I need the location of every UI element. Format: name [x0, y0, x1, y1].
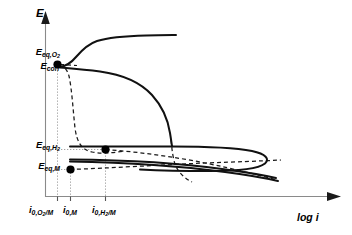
y-tick-symbol-eq-o2: E: [36, 46, 42, 57]
axes-group: [41, 11, 341, 201]
y-tick-sub-eq-o2: eq,O: [42, 51, 57, 58]
y-tick-label-ecorr: Ecorr: [2, 61, 60, 71]
solid-curves-group: [60, 35, 278, 181]
x-axis-title: log i: [297, 212, 319, 223]
eq-point-h2-marker: [101, 145, 109, 153]
x-axis-title-prefix: log: [297, 211, 316, 223]
y-axis-title: E: [36, 8, 44, 20]
x-axis-title-symbol: i: [316, 211, 319, 223]
eq-point-m-marker: [66, 165, 74, 173]
y-tick-sub-ecorr: corr: [47, 65, 60, 72]
y-tick-label-eq-o2: Eeq,O2: [2, 47, 60, 57]
y-tick-label-eq-m: Eeq,M: [2, 161, 60, 171]
x-tick-subtail-i0-o2: /M: [46, 209, 54, 216]
gridlines-group: [55, 65, 107, 198]
markers-group: [53, 60, 109, 173]
x-tick-sub-i0-o2: 0,O: [32, 209, 43, 216]
x-tick-sub-i0-m: 0,M: [66, 209, 77, 216]
x-tick-marks-group: [58, 197, 106, 202]
y-tick-subdeep-eq-h2: 2: [57, 146, 60, 152]
y-tick-symbol-ecorr: E: [41, 60, 47, 71]
evans-diagram-figure: E log i Eeq,O2 Ecorr Eeq,H2 Eeq,M i0,O2/…: [0, 0, 352, 235]
y-tick-label-eq-h2: Eeq,H2: [2, 140, 60, 150]
oxygen-reduction-curve: [60, 35, 176, 67]
x-tick-sub-i0-h2: 0,H: [95, 209, 106, 216]
x-tick-subtail-i0-h2: /M: [108, 209, 116, 216]
y-tick-subdeep-eq-o2: 2: [57, 53, 60, 59]
y-tick-sub-eq-h2: eq,H: [42, 144, 57, 151]
x-tick-label-i0-h2: i0,H2/M: [92, 205, 116, 215]
x-tick-label-i0-o2: i0,O2/M: [29, 205, 53, 215]
y-tick-symbol-eq-m: E: [38, 160, 44, 171]
x-tick-label-i0-m: i0,M: [63, 205, 77, 215]
metal-anodic-active-passive-curve: [60, 68, 172, 147]
oxygen-tafel-dashed-curve: [59, 66, 124, 153]
polarization-plot-canvas: [0, 0, 352, 235]
x-axis-arrowhead: [327, 192, 341, 201]
y-tick-sub-eq-m: eq,M: [45, 165, 60, 172]
